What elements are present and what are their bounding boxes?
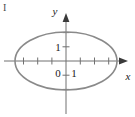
x-axis-label: x — [125, 70, 131, 82]
origin-label: 0 — [55, 67, 61, 79]
y-axis-arrowhead — [63, 13, 70, 22]
x-axis-arrowhead — [119, 58, 128, 65]
corner-mark: I — [3, 2, 6, 13]
coordinate-plane-svg: y x 0 1 1 I — [0, 0, 135, 117]
y-unit-label: 1 — [55, 41, 61, 53]
x-unit-label: 1 — [71, 67, 77, 79]
ellipse-graph-figure: y x 0 1 1 I — [0, 0, 135, 117]
y-axis-label: y — [52, 5, 58, 17]
